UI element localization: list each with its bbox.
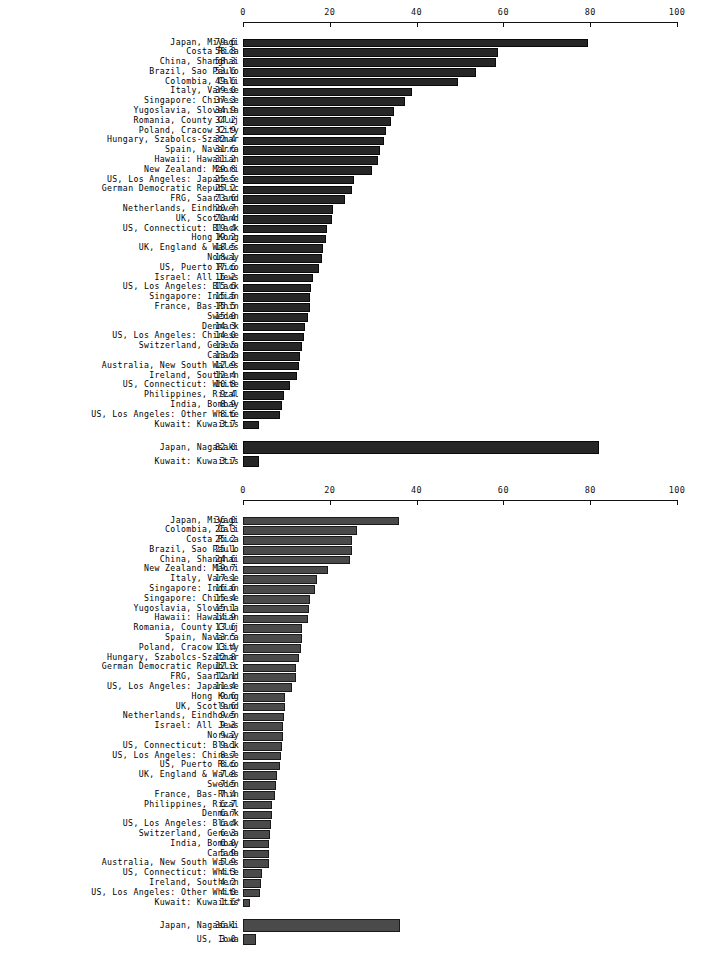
- axis-tick: [503, 500, 504, 505]
- bar-row: Spain, Navarra31.6: [0, 146, 715, 156]
- bar-row: Australia, New South Wales5.9: [0, 859, 715, 869]
- bar-row: Spain, Navarra13.5: [0, 634, 715, 644]
- axis-tick-label: 80: [585, 8, 596, 17]
- bar-row: Hungary, Szabolcs-Szatmar32.4: [0, 136, 715, 146]
- bar-row: Yugoslavia, Slovenia15.1: [0, 604, 715, 614]
- bar: [243, 566, 328, 575]
- bar-row: US, Iowa3.0: [0, 933, 715, 946]
- bar: [243, 156, 378, 165]
- bar: [243, 693, 285, 702]
- bar: [243, 166, 372, 175]
- bar-row: FRG, Saarland23.6: [0, 195, 715, 205]
- bar: [243, 517, 399, 526]
- bar: [243, 421, 259, 430]
- bar: [243, 78, 458, 87]
- bar: [243, 664, 296, 673]
- bar-row: Singapore: Chinese37.3: [0, 97, 715, 107]
- bar: [243, 850, 269, 859]
- axis-tick-label: 40: [411, 8, 422, 17]
- bar: [243, 869, 262, 878]
- axis-line: [243, 22, 677, 23]
- bar: [243, 732, 283, 741]
- bar: [243, 342, 302, 351]
- axis-tick-label: 40: [411, 486, 422, 495]
- bar-row: Japan, Nagasaki82.0: [0, 440, 715, 455]
- bar-row: US, Los Angeles: Chinese14.0: [0, 332, 715, 342]
- bar: [243, 186, 352, 195]
- bar-row: Sweden15.0: [0, 312, 715, 322]
- axis-tick: [330, 22, 331, 27]
- bar-row: Singapore: Chinese15.4: [0, 594, 715, 604]
- bar-row: Australia, New South Wales12.9: [0, 361, 715, 371]
- bar: [243, 58, 496, 67]
- bar: [243, 801, 272, 810]
- bar-row: Colombia, Cali49.6: [0, 77, 715, 87]
- bar-row: Norway18.1: [0, 254, 715, 264]
- bar: [243, 605, 309, 614]
- bar: [243, 899, 250, 908]
- bar-row: Romania, County Cluj13.6: [0, 624, 715, 634]
- bar-row: US, Los Angeles: Other White8.6: [0, 410, 715, 420]
- bar-row: German Democratic Republic25.2: [0, 185, 715, 195]
- bar: [243, 771, 277, 780]
- bar: [243, 323, 305, 332]
- bar: [243, 68, 476, 77]
- bar-row: US, Los Angeles: Black6.4: [0, 820, 715, 830]
- bar-row: US, Los Angeles: Other White4.0: [0, 888, 715, 898]
- bar: [243, 683, 292, 692]
- axis-tick: [243, 500, 244, 505]
- bar: [243, 713, 284, 722]
- axis-tick-label: 0: [240, 486, 246, 495]
- axis-tick-label: 100: [669, 486, 686, 495]
- bar: [243, 889, 260, 898]
- bar: [243, 722, 283, 731]
- bar-row: UK, England & Wales7.8: [0, 771, 715, 781]
- axis-line: [243, 500, 677, 501]
- bar: [243, 352, 300, 361]
- bar-row: France, Bas-Rhin15.5: [0, 303, 715, 313]
- bar-row: US, Connecticut: Black19.4: [0, 224, 715, 234]
- extreme-rows-lower: Japan, Nagasaki36.1US, Iowa3.0: [0, 918, 715, 946]
- bar: [243, 742, 282, 751]
- axis-tick-label: 60: [498, 8, 509, 17]
- bar: [243, 919, 400, 932]
- bar: [243, 146, 380, 155]
- bar-row-value: 3.0: [192, 933, 236, 946]
- bar-row: Brazil, Sao Paulo53.6: [0, 67, 715, 77]
- bar-row: Italy, Varese39.0: [0, 87, 715, 97]
- axis-tick: [503, 22, 504, 27]
- bar-row: Japan, Miyagi36.0: [0, 516, 715, 526]
- bar: [243, 264, 319, 273]
- bar-row: Ireland, Southern12.4: [0, 371, 715, 381]
- bar: [243, 313, 308, 322]
- bar-row-value: 3.7: [192, 420, 236, 430]
- bar: [243, 840, 269, 849]
- bar: [243, 107, 394, 116]
- extreme-rows-upper: Japan, Nagasaki82.0Kuwait: Kuwaitis3.7: [0, 440, 715, 468]
- bar-row: German Democratic Republic12.3: [0, 663, 715, 673]
- bar-row: Hawaii: Hawaiian31.2: [0, 156, 715, 166]
- chart-lower: 020406080100 Japan, Miyagi36.0Colombia, …: [0, 478, 715, 966]
- bar: [243, 362, 299, 371]
- bar-row: US, Connecticut: White4.3: [0, 869, 715, 879]
- bar-row: Kuwait: Kuwaitis1.6*: [0, 898, 715, 908]
- bar: [243, 703, 285, 712]
- bar: [243, 39, 588, 48]
- bar: [243, 401, 282, 410]
- bar-row: China, Shanghai24.6: [0, 555, 715, 565]
- bar: [243, 235, 326, 244]
- bar: [243, 781, 276, 790]
- bar-row: Yugoslavia, Slovenia34.9: [0, 107, 715, 117]
- bar-row: China, Shanghai58.3: [0, 58, 715, 68]
- bar: [243, 752, 281, 761]
- axis-tick: [677, 500, 678, 505]
- bar-row: US, Puerto Rico8.6: [0, 761, 715, 771]
- bar: [243, 859, 269, 868]
- bar: [243, 127, 386, 136]
- bar-row: Brazil, Sao Paulo25.1: [0, 545, 715, 555]
- axis-tick: [590, 500, 591, 505]
- bar: [243, 372, 297, 381]
- bar-row-note: *: [236, 898, 241, 908]
- bar-row: Israel: All Jews16.2: [0, 273, 715, 283]
- bar: [243, 536, 352, 545]
